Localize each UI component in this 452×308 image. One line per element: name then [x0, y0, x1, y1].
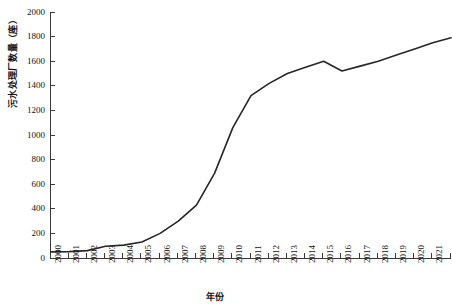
y-axis-tick-label: 1200: [0, 106, 45, 115]
y-axis-tick-label: 1600: [0, 57, 45, 66]
y-axis-tick-label: 1800: [0, 32, 45, 41]
y-axis-tick-label: 1000: [0, 131, 45, 140]
plot-area: [50, 12, 451, 259]
y-axis-tick-label: 0: [0, 254, 45, 263]
y-axis-tick-label: 400: [0, 204, 45, 213]
y-axis-tick-label: 600: [0, 180, 45, 189]
plot-canvas: [51, 12, 451, 258]
sewage-treatment-plant-line-chart: 污水处理厂数量（座） 02004006008001000120014001600…: [0, 0, 452, 308]
y-axis-tick-label: 1400: [0, 81, 45, 90]
y-axis-tick-label: 800: [0, 155, 45, 164]
y-axis-tick-label: 2000: [0, 8, 45, 17]
x-axis-title: 年份: [206, 292, 224, 302]
data-series-line: [51, 38, 451, 252]
y-axis-tick-label: 200: [0, 229, 45, 238]
